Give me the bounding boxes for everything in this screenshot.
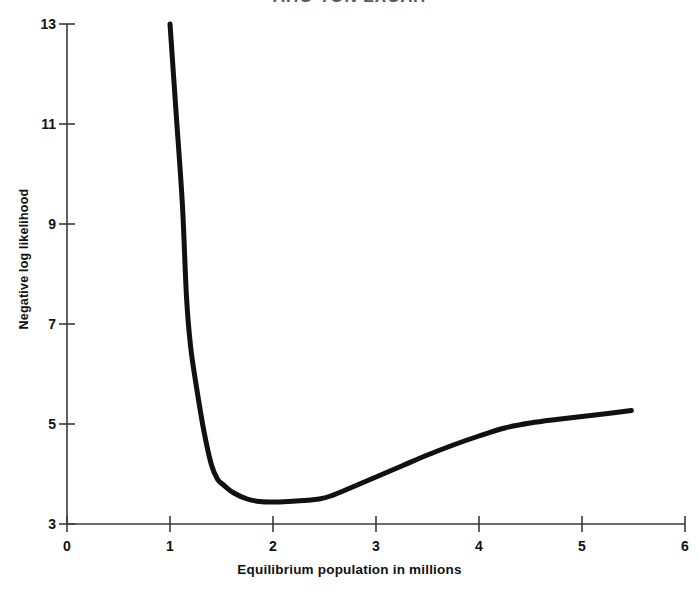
- y-tick-label-3: 3: [26, 516, 56, 532]
- data-series-line: [170, 24, 631, 502]
- x-tick-label-4: 4: [467, 538, 491, 554]
- x-tick-label-6: 6: [673, 538, 697, 554]
- y-tick-label-5: 5: [26, 416, 56, 432]
- y-tick-label-13: 13: [26, 16, 56, 32]
- axes: [67, 24, 685, 524]
- plot-area: [0, 0, 699, 592]
- chart-figure: ΑΠΟ ΤΟΝ ΣΧΟΛΗ 13 11 9 7 5 3 0 1 2: [0, 0, 699, 592]
- x-tick-label-2: 2: [261, 538, 285, 554]
- y-axis-title: Negative log likelihood: [17, 169, 31, 349]
- x-tick-label-1: 1: [158, 538, 182, 554]
- x-tick-label-0: 0: [55, 538, 79, 554]
- y-tick-label-11: 11: [26, 116, 56, 132]
- x-tick-label-5: 5: [570, 538, 594, 554]
- x-axis-title: Equilibrium population in millions: [0, 562, 699, 577]
- x-tick-label-3: 3: [364, 538, 388, 554]
